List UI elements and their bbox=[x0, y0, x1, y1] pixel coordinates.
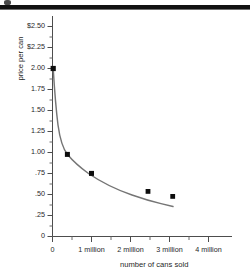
data-point-2 bbox=[89, 171, 94, 176]
y-tick-label-0-75: .75 bbox=[9, 169, 45, 177]
y-tick-label-0-50: .50 bbox=[9, 190, 45, 198]
x-axis-title: number of cans sold bbox=[120, 260, 188, 269]
x-tick-label-4-million: 4 million bbox=[188, 246, 229, 254]
demand-curve-line bbox=[53, 69, 173, 207]
y-tick-label-2-00: 2.00 bbox=[9, 64, 45, 72]
y-tick-label-1-50: 1.50 bbox=[9, 106, 45, 114]
y-tick-label-2-50: $2.50 bbox=[9, 22, 45, 30]
data-point-markers bbox=[51, 66, 176, 199]
y-tick-label-0: 0 bbox=[9, 232, 45, 240]
x-tick-label-0: 0 bbox=[32, 246, 73, 254]
x-tick-label-2-million: 2 million bbox=[110, 246, 151, 254]
y-tick-label-2-25: $2.25 bbox=[9, 43, 45, 51]
chart-plot-area: $2.50 $2.25 2.00 1.75 1.50 1.25 1.00 .75… bbox=[0, 10, 250, 277]
data-point-3 bbox=[146, 189, 151, 194]
y-axis-title: price per can bbox=[16, 24, 25, 94]
chart-page: $2.50 $2.25 2.00 1.75 1.50 1.25 1.00 .75… bbox=[0, 0, 250, 277]
data-point-1 bbox=[65, 152, 70, 157]
y-tick-label-1-25: 1.25 bbox=[9, 127, 45, 135]
y-tick-label-1-00: 1.00 bbox=[9, 148, 45, 156]
data-point-0 bbox=[51, 66, 56, 71]
x-axis-ticks bbox=[53, 237, 209, 243]
y-tick-label-1-75: 1.75 bbox=[9, 85, 45, 93]
data-point-4 bbox=[170, 194, 175, 199]
x-tick-label-3-million: 3 million bbox=[149, 246, 190, 254]
y-tick-label-0-25: .25 bbox=[9, 211, 45, 219]
x-tick-label-1-million: 1 million bbox=[71, 246, 112, 254]
